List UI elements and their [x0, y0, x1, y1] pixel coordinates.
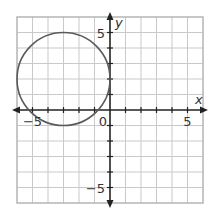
x-tick-label: 5 [183, 114, 191, 129]
x-axis-label: x [194, 92, 203, 107]
coordinate-plane: x y −5055−5 [0, 0, 214, 224]
x-axis-arrow-left-icon [12, 107, 20, 114]
y-axis-arrow-down-icon [107, 200, 114, 208]
x-axis-arrow-right-icon [200, 107, 208, 114]
y-axis-arrow-up-icon [107, 12, 114, 20]
x-tick-label: 0 [99, 114, 107, 129]
y-axis-label: y [114, 15, 123, 30]
y-tick-label: 5 [97, 26, 105, 41]
x-tick-label: −5 [23, 114, 42, 129]
axes [12, 12, 208, 208]
labels: x y −5055−5 [23, 15, 203, 196]
y-tick-label: −5 [86, 181, 105, 196]
